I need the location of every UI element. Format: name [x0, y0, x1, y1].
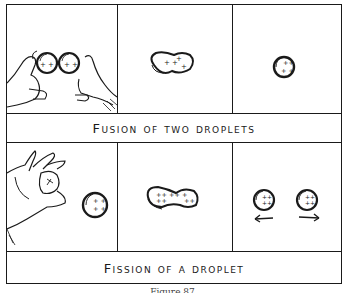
left-arrow-icon [255, 215, 273, 222]
svg-text:+: + [176, 55, 182, 63]
elongating-droplet-icon: ++ ++ + ++ ++ [118, 143, 233, 251]
svg-text:++: ++ [283, 59, 294, 67]
fission-label-band: Fission of a droplet [7, 251, 341, 285]
svg-text:++: ++ [184, 197, 195, 205]
hands-pressing-droplets-icon: + + + + [7, 5, 118, 113]
fission-panel-3: ++ ++ ++ ++ [233, 143, 343, 251]
fission-row: + + + + ++ ++ + ++ ++ ++ ++ ++ ++ [7, 143, 341, 251]
svg-text:++: ++ [262, 199, 272, 206]
svg-text:++: ++ [305, 199, 315, 206]
fused-droplet-icon: ++ + + [233, 5, 343, 113]
fusion-row: + + + + + + + + ++ + + [7, 5, 341, 113]
fusion-panel-3: ++ + + [233, 5, 343, 113]
svg-text:+ +: + + [93, 197, 106, 205]
fusion-title: Fusion of two droplets [93, 121, 256, 136]
svg-text:+ +: + + [93, 205, 106, 213]
right-arrow-icon [299, 214, 319, 221]
separating-droplets-icon: ++ ++ ++ ++ [233, 143, 343, 251]
figure-frame: + + + + + + + + ++ + + Fusi [6, 4, 342, 284]
fusion-label-band: Fusion of two droplets [7, 113, 341, 143]
svg-text:++: ++ [156, 197, 167, 205]
hand-flicking-droplet-icon: + + + + [7, 143, 118, 251]
svg-text:+ +: + + [281, 67, 294, 75]
fusion-panel-1: + + + + [7, 5, 118, 113]
fission-title: Fission of a droplet [104, 261, 245, 276]
fission-panel-2: ++ ++ + ++ ++ [118, 143, 233, 251]
fission-panel-1: + + + + [7, 143, 118, 251]
svg-text:+ +: + + [64, 61, 78, 69]
svg-text:+: + [181, 63, 187, 71]
peanut-droplet-icon: + + + + [118, 5, 233, 113]
fusion-panel-2: + + + + [118, 5, 233, 113]
svg-text:+ +: + + [40, 61, 54, 69]
figure-caption: Figure 87 [0, 285, 345, 293]
